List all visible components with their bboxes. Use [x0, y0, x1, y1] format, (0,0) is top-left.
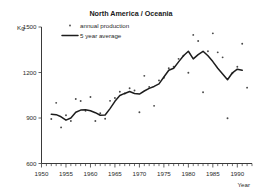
- data-point: [55, 102, 57, 104]
- data-point: [129, 87, 131, 89]
- legend-dot-marker: [69, 25, 71, 27]
- data-point: [99, 112, 101, 114]
- legend-label-annual-production: annual production: [80, 22, 130, 29]
- line-series-five-year-average: [51, 51, 242, 120]
- x-tick-label: 1955: [59, 170, 73, 177]
- data-point: [65, 114, 67, 116]
- x-tick-label: 1970: [133, 170, 147, 177]
- data-point: [227, 117, 229, 119]
- data-point: [104, 118, 106, 120]
- data-point: [75, 98, 77, 100]
- data-point: [114, 97, 116, 99]
- y-tick-label: 600: [26, 160, 37, 167]
- x-axis-ticks: 195019551960196519701975198019851990: [35, 164, 252, 177]
- x-tick-label: 1960: [84, 170, 98, 177]
- data-point: [207, 50, 209, 52]
- chart-title: North America / Oceania: [89, 9, 173, 18]
- data-point: [178, 58, 180, 60]
- x-tick-label: 1980: [181, 170, 195, 177]
- data-point: [60, 126, 62, 128]
- data-point: [90, 96, 92, 98]
- x-tick-label: 1950: [35, 170, 49, 177]
- chart-svg: North America / Oceania annual productio…: [0, 0, 263, 195]
- data-point: [70, 120, 72, 122]
- y-tick-label: 900: [26, 114, 37, 121]
- data-point: [80, 100, 82, 102]
- data-point: [109, 100, 111, 102]
- x-tick-label: 1965: [108, 170, 122, 177]
- data-point: [241, 43, 243, 45]
- scatter-series-annual-production: [50, 32, 248, 128]
- data-point: [212, 32, 214, 34]
- data-point: [94, 120, 96, 122]
- x-tick-label: 1985: [206, 170, 220, 177]
- y-axis-ticks: 60090012001500: [23, 23, 42, 167]
- data-point: [217, 51, 219, 53]
- data-point: [138, 111, 140, 113]
- data-point: [202, 91, 204, 93]
- chart-figure: North America / Oceania annual productio…: [0, 0, 263, 195]
- y-tick-label: 1200: [23, 69, 37, 76]
- data-point: [236, 66, 238, 68]
- data-point: [50, 118, 52, 120]
- data-point: [168, 67, 170, 69]
- chart-legend: annual production 5 year average: [62, 22, 130, 39]
- data-point: [192, 34, 194, 36]
- y-tick-label: 1500: [23, 23, 37, 30]
- x-axis-name-label: Year: [237, 181, 250, 188]
- x-tick-label: 1975: [157, 170, 171, 177]
- data-point: [143, 75, 145, 77]
- x-tick-label: 1990: [230, 170, 244, 177]
- data-point: [119, 91, 121, 93]
- data-point: [187, 72, 189, 74]
- data-point: [197, 40, 199, 42]
- legend-label-five-year-average: 5 year average: [80, 32, 122, 39]
- data-point: [134, 90, 136, 92]
- data-point: [246, 87, 248, 89]
- data-point: [158, 79, 160, 81]
- data-point: [222, 56, 224, 58]
- data-point: [153, 105, 155, 107]
